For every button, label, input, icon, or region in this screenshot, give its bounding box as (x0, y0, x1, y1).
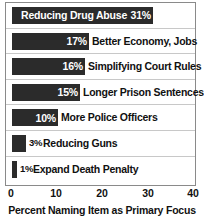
bar-simplifying-court-rules: 16% (12, 58, 85, 75)
bar-reducing-drug-abuse: Reducing Drug Abuse 31% (12, 7, 153, 24)
bar-label: Better Economy, Jobs (92, 36, 197, 47)
table-row: 1% Expand Death Penalty (6, 157, 195, 183)
bar-value: 1% (20, 164, 33, 174)
x-axis-label: Percent Naming Item as Primary Focus (0, 204, 204, 216)
table-row: Reducing Drug Abuse 31% (6, 3, 195, 29)
table-row: 17% Better Economy, Jobs (6, 29, 195, 55)
bar-label: Reducing Guns (43, 138, 117, 149)
bar-reducing-guns (12, 135, 26, 152)
x-axis: 0 10 20 30 40 (5, 188, 196, 202)
bar-chart: Reducing Drug Abuse 31% 17% Better Econo… (0, 0, 204, 221)
x-tick-30: 30 (142, 188, 154, 199)
bar-value: 15% (58, 87, 80, 98)
x-tick-20: 20 (96, 188, 108, 199)
table-row: 16% Simplifying Court Rules (6, 54, 195, 80)
bar-label: More Police Officers (61, 112, 158, 123)
table-row: 10% More Police Officers (6, 105, 195, 131)
bar-more-police-officers: 10% (12, 109, 58, 126)
bar-better-economy-jobs: 17% (12, 33, 89, 50)
bar-label: Expand Death Penalty (33, 164, 138, 175)
bar-expand-death-penalty (12, 161, 17, 178)
table-row: 3% Reducing Guns (6, 131, 195, 157)
x-tick-10: 10 (50, 188, 62, 199)
bar-value: 16% (63, 61, 85, 72)
bar-value: 3% (29, 138, 42, 148)
bar-label: Longer Prison Sentences (83, 87, 204, 98)
bar-value: 31% (131, 10, 153, 21)
table-row: 15% Longer Prison Sentences (6, 80, 195, 106)
bar-value: 17% (67, 36, 89, 47)
bar-longer-prison-sentences: 15% (12, 84, 80, 101)
bar-label-inside: Reducing Drug Abuse (21, 7, 127, 24)
x-tick-0: 0 (8, 188, 14, 199)
x-tick-40: 40 (187, 188, 199, 199)
bar-value: 10% (36, 113, 58, 124)
bar-label: Simplifying Court Rules (88, 61, 201, 72)
plot-area: Reducing Drug Abuse 31% 17% Better Econo… (5, 2, 196, 186)
